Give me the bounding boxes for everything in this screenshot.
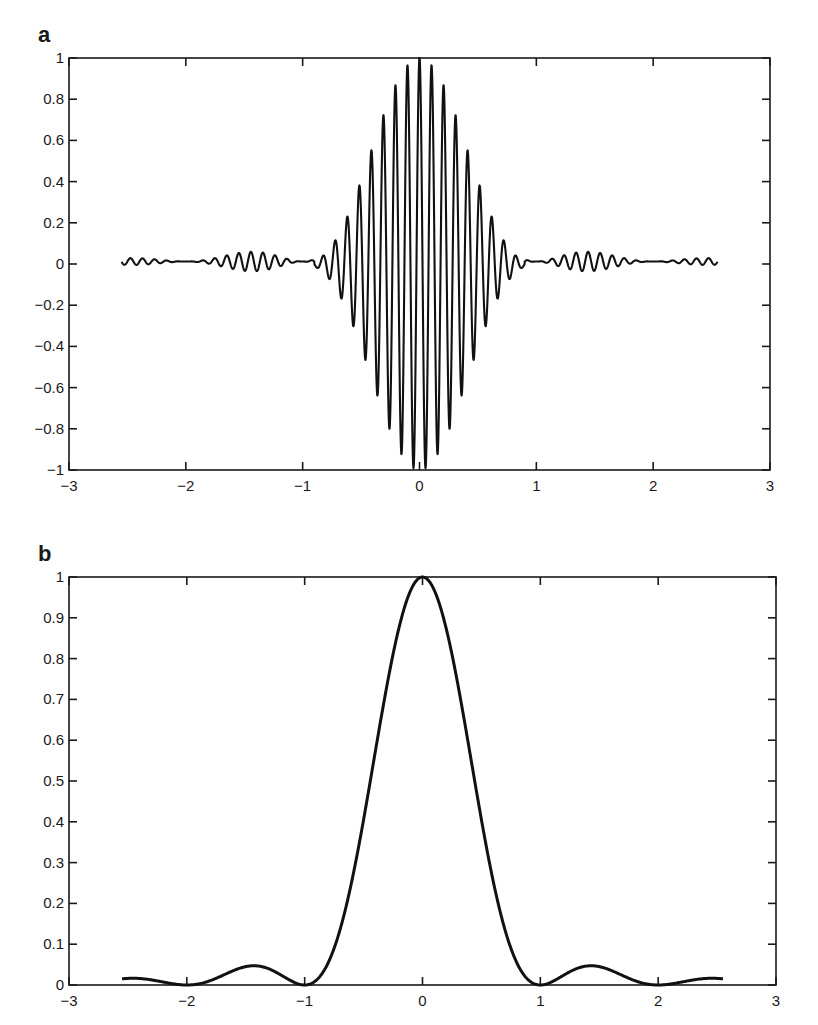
x-tick-label: −3: [60, 477, 77, 494]
y-tick-label: 0.8: [43, 90, 64, 107]
y-tick-label: 0.9: [43, 609, 64, 626]
y-tick-label: 1: [56, 568, 64, 585]
axes-frame: [69, 58, 770, 470]
y-tick-label: −1: [47, 461, 64, 478]
chart-panel-b: b−3−2−1012300.10.20.30.40.50.60.70.80.91: [0, 515, 818, 1025]
y-tick-label: 0.4: [43, 173, 64, 190]
y-tick-label: 0.6: [43, 131, 64, 148]
y-tick-label: −0.4: [34, 337, 64, 354]
y-tick-label: 0.7: [43, 690, 64, 707]
y-tick-label: 0.6: [43, 731, 64, 748]
panel-label: b: [38, 541, 51, 566]
axes-frame: [69, 577, 776, 985]
x-tick-label: −2: [177, 477, 194, 494]
x-tick-label: 2: [654, 992, 662, 1009]
x-tick-label: 3: [766, 477, 774, 494]
y-tick-label: −0.6: [34, 379, 64, 396]
chart-b-plot: b−3−2−1012300.10.20.30.40.50.60.70.80.91: [0, 515, 818, 1025]
x-tick-label: 1: [532, 477, 540, 494]
y-tick-label: 0.2: [43, 214, 64, 231]
y-tick-label: 0: [56, 976, 64, 993]
y-tick-label: 0.5: [43, 772, 64, 789]
x-tick-label: 0: [415, 477, 423, 494]
chart-a-plot: a−3−2−10123−1−0.8−0.6−0.4−0.200.20.40.60…: [0, 0, 818, 510]
y-tick-label: 0.1: [43, 935, 64, 952]
x-tick-label: 0: [418, 992, 426, 1009]
data-series-line: [122, 58, 718, 468]
data-series-line: [122, 577, 723, 985]
y-tick-label: −0.2: [34, 296, 64, 313]
x-tick-label: 1: [536, 992, 544, 1009]
x-tick-label: −1: [294, 477, 311, 494]
x-tick-label: −2: [178, 992, 195, 1009]
y-tick-label: 0.4: [43, 813, 64, 830]
x-tick-label: −3: [60, 992, 77, 1009]
y-tick-label: 0.2: [43, 894, 64, 911]
x-tick-label: 3: [772, 992, 780, 1009]
y-tick-label: 1: [56, 49, 64, 66]
y-tick-label: 0.3: [43, 854, 64, 871]
y-tick-label: 0: [56, 255, 64, 272]
x-tick-label: −1: [296, 992, 313, 1009]
panel-label: a: [38, 22, 51, 47]
chart-panel-a: a−3−2−10123−1−0.8−0.6−0.4−0.200.20.40.60…: [0, 0, 818, 510]
x-tick-label: 2: [649, 477, 657, 494]
y-tick-label: −0.8: [34, 420, 64, 437]
y-tick-label: 0.8: [43, 650, 64, 667]
